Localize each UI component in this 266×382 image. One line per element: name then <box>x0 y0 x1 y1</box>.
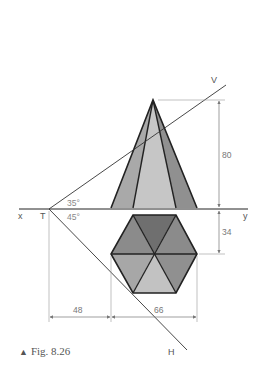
pyramid-elevation <box>111 100 197 208</box>
H-label: H <box>168 347 175 357</box>
figure-caption: ▲Fig. 8.26 <box>19 345 71 357</box>
hexagon-plan <box>111 215 197 293</box>
angle-45-label: 45° <box>67 212 80 222</box>
dim-distance-label: 48 <box>73 305 83 315</box>
dim-height-label: 80 <box>222 150 232 160</box>
dim-hex-width-label: 66 <box>154 305 164 315</box>
dim-offset-label: 34 <box>222 227 232 237</box>
x-label: x <box>18 211 23 221</box>
projection-diagram: 80 34 48 66 35° 45° x T y V H ▲Fig. 8.26 <box>0 0 266 382</box>
triangle-marker-icon: ▲ <box>19 347 28 357</box>
y-label: y <box>243 211 248 221</box>
V-label: V <box>211 75 217 85</box>
T-label: T <box>40 211 46 221</box>
angle-35-label: 35° <box>67 198 80 208</box>
